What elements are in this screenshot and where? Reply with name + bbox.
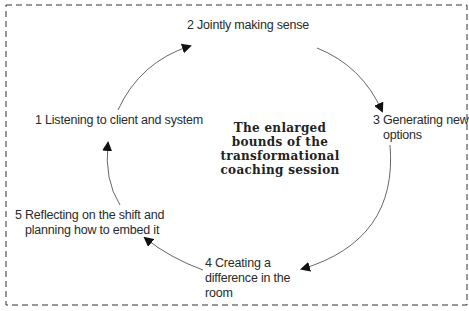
center-title: The enlarged bounds of the transformatio…	[200, 121, 360, 177]
arrow-1-to-2	[118, 46, 190, 110]
step-5-label: 5 Reflecting on the shift and planning h…	[15, 208, 164, 238]
step-3-label: 3 Generating new options	[373, 113, 468, 143]
center-title-line-3: transformational	[200, 149, 360, 163]
step-4-label: 4 Creating a difference in the room	[205, 256, 290, 301]
step-1-label: 1 Listening to client and system	[35, 113, 203, 128]
center-title-line-2: bounds of the	[200, 135, 360, 149]
step-5-line-1: 5 Reflecting on the shift and	[15, 208, 164, 223]
step-5-line-2: planning how to embed it	[15, 223, 164, 238]
step-4-line-3: room	[205, 286, 290, 301]
arrow-5-to-1	[107, 143, 120, 205]
step-3-line-2: options	[373, 128, 468, 143]
step-4-line-2: difference in the	[205, 271, 290, 286]
center-title-line-4: coaching session	[200, 163, 360, 177]
step-3-line-1: 3 Generating new	[373, 113, 468, 128]
arrow-4-to-5	[145, 238, 203, 270]
step-4-line-1: 4 Creating a	[205, 256, 290, 271]
arrow-2-to-3	[317, 48, 382, 111]
step-2-label: 2 Jointly making sense	[187, 18, 309, 33]
step-2-line-1: 2 Jointly making sense	[187, 18, 309, 32]
center-title-line-1: The enlarged	[200, 121, 360, 135]
step-1-line-1: 1 Listening to client and system	[35, 113, 203, 127]
